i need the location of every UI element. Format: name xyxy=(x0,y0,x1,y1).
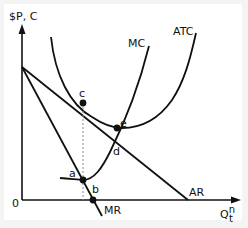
origin-label: 0 xyxy=(12,197,19,210)
x-axis-arrow-icon xyxy=(231,197,241,204)
point-a xyxy=(80,177,87,184)
ar-label: AR xyxy=(189,186,205,199)
point-e-label: e xyxy=(120,117,127,130)
mr-label: MR xyxy=(104,204,121,217)
point-a-label: a xyxy=(69,167,76,180)
y-axis-arrow-icon xyxy=(19,24,26,34)
point-c-label: c xyxy=(79,87,85,100)
y-axis-label: $P, C xyxy=(9,10,38,23)
economics-diagram: $P, C 0 Qnt MC ATC AR MR c e d a b xyxy=(0,0,248,228)
ar-curve xyxy=(22,67,188,200)
mc-curve xyxy=(60,46,149,180)
x-axis-label-sub: t xyxy=(229,213,233,224)
x-axis-label: Qnt xyxy=(220,204,235,224)
x-axis-label-main: Q xyxy=(220,208,229,221)
mr-curve xyxy=(22,67,102,216)
point-b-label: b xyxy=(92,183,99,196)
point-b xyxy=(90,197,97,204)
atc-curve xyxy=(51,33,196,128)
mc-label: MC xyxy=(128,37,145,50)
point-d-label: d xyxy=(113,145,120,158)
point-c xyxy=(80,100,87,107)
atc-label: ATC xyxy=(173,25,194,38)
